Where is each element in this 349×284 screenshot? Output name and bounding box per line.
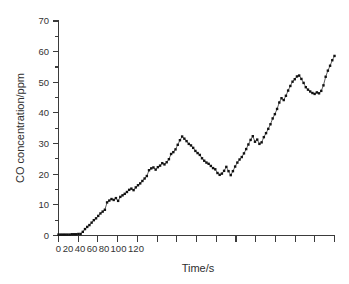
- data-point-marker: [316, 91, 318, 93]
- data-point-marker: [313, 93, 315, 95]
- data-point-marker: [218, 174, 220, 176]
- data-point-marker: [84, 228, 86, 230]
- chart-container: 0 10 20 30 40 50 60 70: [0, 0, 349, 284]
- data-point-marker: [90, 221, 92, 223]
- data-point-marker: [278, 101, 280, 103]
- data-point-marker: [230, 174, 232, 176]
- data-point-marker: [263, 136, 265, 138]
- data-point-marker: [183, 137, 185, 139]
- data-point-marker: [108, 199, 110, 201]
- data-point-marker: [245, 148, 247, 150]
- data-point-marker: [289, 85, 291, 87]
- data-point-marker: [254, 141, 256, 143]
- co-concentration-line-chart: 0 10 20 30 40 50 60 70: [0, 0, 349, 284]
- data-point-marker: [267, 128, 269, 130]
- data-point-marker: [287, 89, 289, 91]
- data-point-marker: [274, 113, 276, 115]
- data-point-marker: [331, 59, 333, 61]
- data-point-marker: [154, 168, 156, 170]
- data-point-marker: [276, 108, 278, 110]
- x-tick-label: 40: [75, 243, 86, 254]
- data-point-marker: [132, 189, 134, 191]
- data-point-marker: [302, 82, 304, 84]
- data-point-marker: [223, 170, 225, 172]
- data-point-marker: [181, 135, 183, 137]
- data-point-marker: [320, 90, 322, 92]
- data-point-marker: [174, 148, 176, 150]
- data-point-marker: [97, 215, 99, 217]
- data-point-marker: [285, 95, 287, 97]
- data-point-marker: [188, 143, 190, 145]
- data-point-marker: [150, 167, 152, 169]
- data-point-marker: [161, 162, 163, 164]
- data-point-marker: [252, 135, 254, 137]
- data-point-marker: [305, 86, 307, 88]
- x-tick-label: 60: [87, 243, 98, 254]
- data-point-marker: [221, 172, 223, 174]
- y-tick-label: 10: [38, 199, 49, 210]
- y-tick-label: 0: [44, 230, 49, 241]
- data-point-marker: [135, 186, 137, 188]
- x-axis-ticks: [59, 236, 335, 242]
- data-point-marker: [271, 117, 273, 119]
- data-point-marker: [79, 233, 81, 235]
- data-point-marker: [258, 143, 260, 145]
- data-point-marker: [141, 180, 143, 182]
- data-point-marker: [117, 200, 119, 202]
- data-point-marker: [249, 139, 251, 141]
- data-point-marker: [77, 233, 79, 235]
- data-point-marker: [203, 160, 205, 162]
- data-point-marker: [157, 166, 159, 168]
- data-point-marker: [190, 144, 192, 146]
- data-point-marker: [148, 169, 150, 171]
- data-point-marker: [280, 97, 282, 99]
- x-axis-tick-labels: 0 20 40 60 80 100 120: [56, 243, 144, 254]
- data-point-marker: [322, 84, 324, 86]
- data-point-marker: [194, 150, 196, 152]
- data-point-marker: [121, 194, 123, 196]
- data-point-marker: [311, 92, 313, 94]
- y-tick-label: 30: [38, 138, 49, 149]
- data-point-marker: [71, 233, 73, 235]
- data-point-marker: [309, 90, 311, 92]
- data-point-marker: [163, 163, 165, 165]
- data-point-marker: [205, 161, 207, 163]
- data-point-marker: [143, 177, 145, 179]
- data-point-marker: [291, 80, 293, 82]
- y-axis-title: CO concentration/ppm: [14, 73, 26, 183]
- x-tick-label: 100: [111, 243, 127, 254]
- series-markers-co-concentration: [57, 55, 335, 236]
- data-point-marker: [216, 172, 218, 174]
- data-point-marker: [210, 165, 212, 167]
- data-point-marker: [95, 217, 97, 219]
- data-point-marker: [152, 166, 154, 168]
- data-point-marker: [124, 193, 126, 195]
- data-point-marker: [66, 233, 68, 235]
- x-tick-label: 20: [63, 243, 74, 254]
- data-point-marker: [318, 92, 320, 94]
- data-point-marker: [82, 231, 84, 233]
- data-point-marker: [113, 199, 115, 201]
- data-point-marker: [201, 157, 203, 159]
- data-point-marker: [247, 143, 249, 145]
- data-point-marker: [232, 170, 234, 172]
- data-point-marker: [294, 78, 296, 80]
- x-tick-label: 0: [56, 243, 61, 254]
- data-point-marker: [159, 164, 161, 166]
- y-tick-label: 40: [38, 107, 49, 118]
- data-point-marker: [88, 224, 90, 226]
- data-point-marker: [104, 209, 106, 211]
- data-point-marker: [333, 55, 335, 57]
- y-axis-ticks: [53, 21, 59, 236]
- data-point-marker: [177, 144, 179, 146]
- data-point-marker: [75, 233, 77, 235]
- data-point-marker: [227, 170, 229, 172]
- data-point-marker: [168, 158, 170, 160]
- data-point-marker: [86, 226, 88, 228]
- data-point-marker: [269, 123, 271, 125]
- data-point-marker: [64, 233, 66, 235]
- x-tick-label: 120: [128, 243, 144, 254]
- y-tick-label: 20: [38, 169, 49, 180]
- data-point-marker: [179, 139, 181, 141]
- data-point-marker: [99, 212, 101, 214]
